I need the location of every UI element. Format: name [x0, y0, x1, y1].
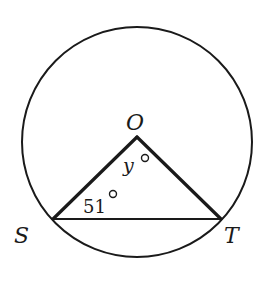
radius-ot — [137, 137, 221, 219]
label-s: S — [14, 223, 29, 248]
label-t: T — [224, 223, 241, 248]
degree-icon — [110, 191, 117, 198]
circle — [22, 27, 252, 257]
diagram: O S T y 51 — [0, 0, 258, 284]
diagram-canvas: O S T y 51 — [0, 0, 258, 284]
angle-s-label: 51 — [83, 196, 106, 217]
degree-icon — [142, 155, 149, 162]
angle-o-label: y — [122, 154, 134, 176]
label-o: O — [126, 110, 144, 135]
